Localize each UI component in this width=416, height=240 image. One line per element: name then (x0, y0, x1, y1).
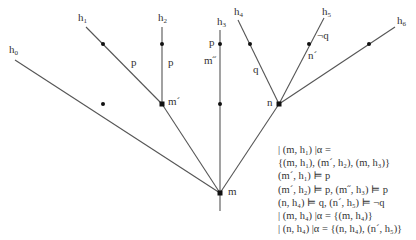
history-h1-line (86, 27, 162, 104)
moment-dot-h0 (101, 102, 105, 106)
edge-label-h5-not-q: ¬q (317, 30, 329, 41)
history-label-h2: h2 (158, 12, 167, 23)
edge-label-h3-m-double-prime: m˝ (204, 55, 216, 66)
edge-label-h1-p: p (131, 57, 137, 68)
history-h6-line (279, 27, 395, 104)
edge-label-h3-p: p (209, 37, 215, 48)
formula-line: | (m, h₄) |α = {(m, h₄)} (278, 209, 402, 222)
moment-dot-h6 (367, 42, 371, 46)
formula-line: {(m, h₁), (m´, h₂), (m, h₃)} (278, 156, 402, 169)
moment-dot-h4 (248, 42, 252, 46)
history-label-h1: h1 (78, 12, 87, 23)
node-label-m: m (228, 186, 237, 197)
history-label-h3: h3 (217, 16, 226, 27)
moment-dot-h3-lower (218, 102, 222, 106)
moment-dot-h2 (160, 42, 164, 46)
edge-label-h2-p: p (168, 57, 174, 68)
history-label-h0: h0 (9, 44, 18, 55)
moment-dot-h3-upper (218, 42, 222, 46)
formula-line: (m´, h₁) ⊨ p (278, 169, 402, 182)
m-to-m-prime-line (162, 104, 220, 193)
edge-label-h5-n-prime: n´ (308, 50, 317, 61)
node-label-n: n (267, 97, 273, 108)
node-m (218, 191, 223, 196)
moment-dot-h1 (101, 42, 105, 46)
formula-line: | (n, h₄) |α = {(n, h₄), (n´, h₅)} (278, 222, 402, 235)
formula-block: | (m, h₁) |α = {(m, h₁), (m´, h₂), (m, h… (278, 143, 402, 235)
history-label-h6: h6 (397, 15, 406, 26)
node-m-prime (160, 102, 165, 107)
history-label-h4: h4 (234, 6, 243, 17)
moment-dot-h5 (307, 42, 311, 46)
m-to-n-line (220, 104, 279, 193)
history-h0-line (15, 60, 220, 193)
formula-line: (n, h₄) ⊨ q, (n´, h₅) ⊨ ¬q (278, 196, 402, 209)
node-n (277, 102, 282, 107)
edge-label-h4-q: q (253, 64, 259, 75)
node-label-m-prime: m´ (168, 96, 180, 107)
formula-line: (m´, h₂) ⊨ p, (m˝, h₃) ⊨ p (278, 183, 402, 196)
history-h4-line (238, 20, 279, 104)
history-label-h5: h5 (322, 6, 331, 17)
formula-line: | (m, h₁) |α = (278, 143, 402, 156)
